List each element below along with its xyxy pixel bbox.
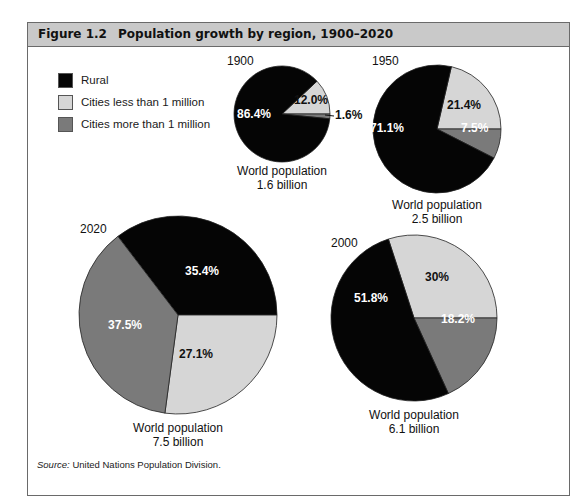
- caption-line: World population: [212, 164, 352, 178]
- figure-frame: Figure 1.2 Population growth by region, …: [27, 22, 570, 496]
- year-label-2000: 2000: [331, 236, 358, 250]
- pct-label-2000-large: 18.2%: [441, 312, 475, 326]
- source-note: Source: United Nations Population Divisi…: [37, 459, 221, 470]
- pct-label-2000-small: 30%: [425, 270, 449, 284]
- caption-2020: World population 7.5 billion: [108, 421, 248, 449]
- source-label: Source:: [37, 459, 70, 470]
- caption-line: World population: [367, 198, 507, 212]
- pct-label-1950-small: 21.4%: [447, 98, 481, 112]
- pct-label-2020-rural: 35.4%: [185, 264, 219, 278]
- year-label-2020: 2020: [80, 222, 107, 236]
- pct-label-2020-small: 27.1%: [179, 347, 213, 361]
- source-text: United Nations Population Division.: [70, 459, 221, 470]
- year-label-1900: 1900: [227, 54, 254, 68]
- pct-label-1950-large: 7.5%: [461, 121, 488, 135]
- caption-1950: World population 2.5 billion: [367, 198, 507, 226]
- pct-label-1900-large: 1.6%: [335, 108, 362, 122]
- pct-label-1950-rural: 71.1%: [370, 121, 404, 135]
- caption-value: 6.1 billion: [344, 422, 484, 436]
- pct-label-2020-large: 37.5%: [108, 318, 142, 332]
- pct-label-1900-small: 12.0%: [294, 93, 328, 107]
- pct-label-1900-rural: 86.4%: [237, 107, 271, 121]
- caption-value: 7.5 billion: [108, 435, 248, 449]
- caption-1900: World population 1.6 billion: [212, 164, 352, 192]
- caption-value: 1.6 billion: [212, 178, 352, 192]
- pct-label-2000-rural: 51.8%: [354, 291, 388, 305]
- caption-value: 2.5 billion: [367, 212, 507, 226]
- caption-line: World population: [108, 421, 248, 435]
- caption-line: World population: [344, 408, 484, 422]
- caption-2000: World population 6.1 billion: [344, 408, 484, 436]
- pie-2020: [79, 216, 277, 414]
- year-label-1950: 1950: [372, 54, 399, 68]
- pie-slice-small-cities: [165, 315, 277, 414]
